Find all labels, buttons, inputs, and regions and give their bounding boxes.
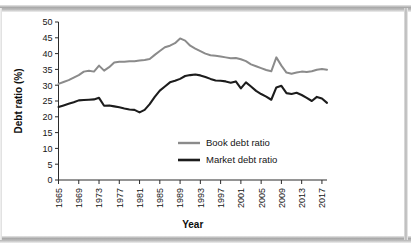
y-tick-label: 10 bbox=[42, 144, 52, 154]
x-tick-label: 2001 bbox=[236, 188, 246, 208]
chart-legend: Book debt ratioMarket debt ratio bbox=[178, 137, 277, 165]
x-tick-label: 1977 bbox=[115, 188, 125, 208]
x-axis-title: Year bbox=[182, 219, 203, 230]
x-tick-label: 1989 bbox=[175, 188, 185, 208]
x-tick-label: 1965 bbox=[54, 188, 64, 208]
x-tick-label: 1993 bbox=[196, 188, 206, 208]
x-tick-label: 2017 bbox=[317, 188, 327, 208]
y-axis-ticks: 05101520253035404550 bbox=[42, 17, 58, 185]
x-tick-label: 2005 bbox=[257, 188, 267, 208]
series-lines bbox=[59, 38, 328, 112]
x-tick-label: 1997 bbox=[216, 188, 226, 208]
x-tick-label: 2013 bbox=[297, 188, 307, 208]
chart-figure: 05101520253035404550 1965196919731977198… bbox=[0, 0, 411, 248]
series-line-market-debt-ratio bbox=[59, 74, 328, 112]
debt-ratio-line-chart: 05101520253035404550 1965196919731977198… bbox=[0, 0, 411, 248]
y-tick-label: 0 bbox=[47, 175, 52, 185]
y-tick-label: 35 bbox=[42, 65, 52, 75]
legend-label-book-debt-ratio: Book debt ratio bbox=[206, 137, 270, 148]
x-tick-label: 1985 bbox=[155, 188, 165, 208]
y-tick-label: 5 bbox=[47, 160, 52, 170]
y-tick-label: 25 bbox=[42, 96, 52, 106]
x-axis-ticks: 1965196919731977198119851989199319972001… bbox=[54, 180, 327, 208]
x-tick-label: 2009 bbox=[277, 188, 287, 208]
x-tick-label: 1981 bbox=[135, 188, 145, 208]
y-tick-label: 20 bbox=[42, 112, 52, 122]
series-line-book-debt-ratio bbox=[59, 38, 328, 84]
y-tick-label: 40 bbox=[42, 49, 52, 59]
y-tick-label: 15 bbox=[42, 128, 52, 138]
y-tick-label: 30 bbox=[42, 81, 52, 91]
y-axis-title: Debt ratio (%) bbox=[13, 69, 24, 134]
legend-label-market-debt-ratio: Market debt ratio bbox=[206, 154, 277, 165]
y-tick-label: 50 bbox=[42, 17, 52, 27]
x-tick-label: 1973 bbox=[94, 188, 104, 208]
x-tick-label: 1969 bbox=[74, 188, 84, 208]
y-tick-label: 45 bbox=[42, 33, 52, 43]
